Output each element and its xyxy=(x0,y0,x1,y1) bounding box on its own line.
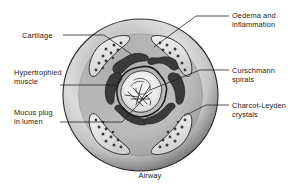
label-mucus-plug: Mucus plug in lumen xyxy=(14,108,53,126)
figure-caption: Airway xyxy=(0,171,300,180)
label-cartilage: Cartilage xyxy=(22,31,52,40)
lumen xyxy=(117,66,167,117)
label-hypertrophied-muscle: Hypertrophied muscle xyxy=(14,68,62,86)
label-charcot-leyden-crystals: Charcot-Leyden crystals xyxy=(232,101,286,119)
label-oedema-inflammation: Oedema and inflammation xyxy=(232,11,276,29)
label-curschmann-spirals: Curschmann spirals xyxy=(232,66,275,84)
